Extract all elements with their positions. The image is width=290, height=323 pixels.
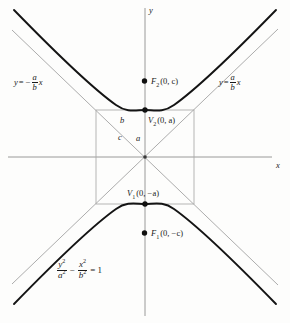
asymptote-right-fraction: ab xyxy=(230,73,236,92)
asymptote-left-equals: = − xyxy=(19,77,31,87)
vertex-upper-coords: (0, a) xyxy=(157,115,175,125)
equation-first-denominator-exponent: 2 xyxy=(63,269,66,275)
segment-c-label: c xyxy=(118,133,122,142)
asymptote-left-lhs: y xyxy=(14,77,18,87)
asymptote-left-variable: x xyxy=(39,77,43,87)
equation-minus-sign: − xyxy=(70,265,75,275)
focus-upper-index: 2 xyxy=(156,82,159,88)
focus-lower-point xyxy=(142,230,147,235)
equation-second-numerator-exponent: 2 xyxy=(83,258,86,264)
focus-upper-label: F2(0, c) xyxy=(151,77,178,88)
hyperbola-figure: y x y= −abx y=abx F2(0, c) V2(0, a) V1(0… xyxy=(0,0,290,323)
vertex-lower-point xyxy=(142,201,147,206)
hyperbola-graph-svg xyxy=(0,0,290,323)
segment-a-label: a xyxy=(136,134,140,143)
equation-first-numerator-exponent: 2 xyxy=(62,258,65,264)
asymptote-left-denominator: b xyxy=(32,83,38,92)
focus-lower-label: F1(0, −c) xyxy=(151,229,183,240)
equation-first-fraction: y2a2 xyxy=(57,260,67,280)
y-axis-label: y xyxy=(149,6,153,15)
vertex-lower-label: V1(0, −a) xyxy=(127,189,159,200)
equation-first-denominator: a2 xyxy=(57,271,67,280)
equation-right-hand-side: = 1 xyxy=(90,265,102,275)
vertex-lower-index: 1 xyxy=(132,194,135,200)
segment-b-label: b xyxy=(120,116,124,125)
hyperbola-equation-label: y2a2−x2b2= 1 xyxy=(57,261,102,281)
equation-second-fraction: x2b2 xyxy=(78,260,88,280)
origin-point xyxy=(143,155,147,159)
asymptote-left-label: y= −abx xyxy=(14,74,43,93)
focus-lower-index: 1 xyxy=(156,234,159,240)
asymptote-right-denominator: b xyxy=(230,83,236,92)
asymptote-right-variable: x xyxy=(237,77,241,87)
vertex-upper-label: V2(0, a) xyxy=(148,116,175,127)
focus-lower-coords: (0, −c) xyxy=(160,228,183,238)
asymptote-left-fraction: ab xyxy=(32,73,38,92)
vertex-lower-coords: (0, −a) xyxy=(136,188,159,198)
equation-second-denominator-exponent: 2 xyxy=(83,269,86,275)
vertex-upper-point xyxy=(142,107,147,112)
asymptote-right-equals: = xyxy=(224,77,229,87)
focus-upper-coords: (0, c) xyxy=(160,76,178,86)
vertex-upper-index: 2 xyxy=(153,121,156,127)
focus-upper-point xyxy=(142,78,147,83)
x-axis-label: x xyxy=(276,161,280,170)
asymptote-right-label: y=abx xyxy=(219,74,241,93)
equation-second-denominator: b2 xyxy=(78,271,88,280)
asymptote-right-lhs: y xyxy=(219,77,223,87)
